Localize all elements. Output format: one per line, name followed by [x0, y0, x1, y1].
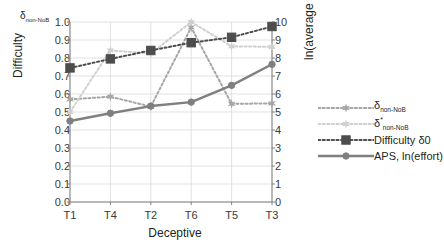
- legend-item-3[interactable]: APS, ln(effort): [318, 148, 444, 164]
- legend-label: Difficulty δ0: [374, 134, 431, 146]
- data-point-marker: [227, 33, 235, 41]
- legend-key: [318, 149, 374, 163]
- legend-label-subscript: non-NoB: [380, 107, 406, 114]
- legend-label-main: Difficulty δ0: [374, 134, 431, 146]
- data-point-marker: [66, 64, 74, 72]
- data-point-marker: [67, 118, 73, 124]
- legend-item-2[interactable]: Difficulty δ0: [318, 132, 444, 148]
- series-line: [70, 64, 272, 121]
- chart-legend: δnon-NoBδ*non-NoBDifficulty δ0APS, ln(ef…: [318, 100, 444, 164]
- legend-key: [318, 117, 374, 131]
- series-0: [66, 23, 276, 111]
- legend-label-subscript: non-NoB: [383, 124, 409, 131]
- data-point-marker: [107, 110, 113, 116]
- chart-figure: δnon-NoB 1.00.90.80.70.60.50.40.30.20.10…: [0, 0, 444, 249]
- legend-item-1[interactable]: δ*non-NoB: [318, 116, 444, 132]
- data-point-marker: [106, 55, 114, 63]
- legend-key: [318, 101, 374, 115]
- data-point-marker: [228, 82, 234, 88]
- data-point-marker: [268, 22, 276, 30]
- legend-label: APS, ln(effort): [374, 150, 443, 162]
- data-point-marker: [148, 103, 154, 109]
- series-line: [70, 27, 272, 106]
- legend-label: δ*non-NoB: [374, 114, 409, 134]
- data-point-marker: [147, 46, 155, 54]
- legend-label-superscript: *: [380, 116, 383, 123]
- data-point-marker: [342, 136, 350, 144]
- data-point-marker: [187, 39, 195, 47]
- legend-label-main: APS, ln(effort): [374, 150, 443, 162]
- legend-key: [318, 133, 374, 147]
- data-point-marker: [269, 61, 275, 67]
- data-point-marker: [343, 153, 349, 159]
- data-point-marker: [188, 99, 194, 105]
